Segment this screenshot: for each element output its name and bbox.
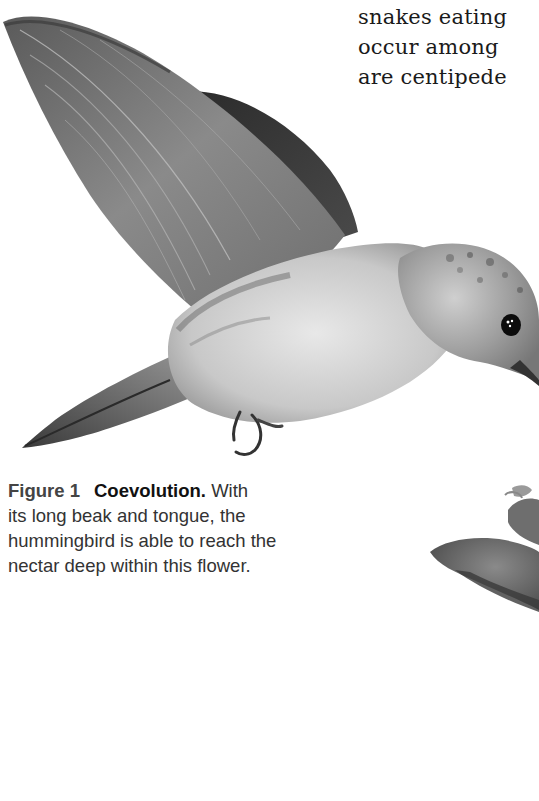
figure-label: Figure 1 (8, 480, 80, 501)
caption-text-start: With (211, 480, 248, 501)
body-text-line: snakes eating (358, 2, 539, 32)
flower-shape (430, 485, 539, 612)
caption-line: nectar deep within this flower. (8, 553, 368, 578)
caption-line: hummingbird is able to reach the (8, 528, 368, 553)
body-text-column: snakes eating occur among are centipede (358, 2, 539, 92)
body-text-line: occur among (358, 32, 539, 62)
caption-line: its long beak and tongue, the (8, 503, 368, 528)
figure-title: Coevolution. (94, 480, 206, 501)
figure-caption: Figure 1Coevolution. With its long beak … (8, 478, 368, 578)
body-text-line: are centipede (358, 62, 539, 92)
eye-shape (501, 314, 521, 336)
caption-first-line: Figure 1Coevolution. With (8, 478, 368, 503)
